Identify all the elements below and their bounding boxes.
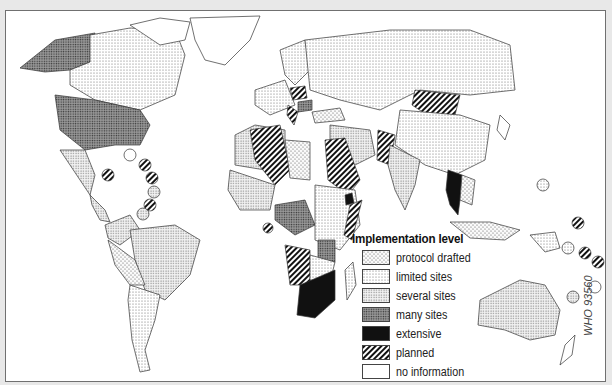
island-circle	[592, 256, 604, 268]
region-greenland	[190, 16, 260, 65]
legend-label: several sites	[396, 289, 456, 303]
region-hungary	[298, 100, 312, 112]
legend-label: extensive	[396, 327, 441, 341]
region-poland	[290, 86, 307, 100]
island-circle	[148, 186, 160, 198]
island-circle	[562, 242, 574, 254]
swatch-limited-sites-icon	[362, 269, 390, 284]
island-circle	[263, 223, 273, 233]
swatch-many-sites-icon	[362, 307, 390, 322]
region-indochina	[460, 175, 475, 205]
legend-label: protocol drafted	[396, 251, 471, 265]
region-thailand	[446, 170, 462, 215]
island-circle	[567, 291, 579, 303]
region-libya	[285, 140, 310, 180]
legend-label: limited sites	[396, 270, 452, 284]
island-circle	[124, 149, 136, 161]
region-russia	[305, 30, 515, 110]
legend-item-planned: planned	[362, 343, 502, 362]
legend-label: planned	[396, 346, 434, 360]
swatch-several-sites-icon	[362, 288, 390, 303]
legend-item-many-sites: many sites	[362, 305, 502, 324]
legend-item-limited-sites: limited sites	[362, 267, 502, 286]
region-argentina-chile	[128, 285, 160, 372]
region-new-zealand	[560, 335, 575, 365]
region-central-africa	[275, 200, 315, 235]
island-circle	[579, 247, 591, 259]
island-circle	[102, 169, 114, 181]
island-circle	[139, 159, 151, 171]
region-central-america	[90, 195, 110, 222]
swatch-planned-icon	[362, 345, 390, 360]
island-circle	[572, 217, 584, 229]
legend-item-extensive: extensive	[362, 324, 502, 343]
swatch-protocol-drafted-icon	[362, 250, 390, 265]
region-namibia-angola	[285, 245, 310, 285]
island-circle	[537, 179, 549, 191]
legend-item-several-sites: several sites	[362, 286, 502, 305]
region-png	[530, 232, 560, 252]
swatch-no-information-icon	[362, 364, 390, 379]
figure-code: WHO 93560	[582, 275, 594, 336]
island-circle	[137, 208, 149, 220]
legend-title: Implementation level	[352, 231, 481, 246]
region-italy	[287, 105, 298, 125]
legend-item-protocol-drafted: protocol drafted	[362, 248, 502, 267]
world-map	[0, 0, 612, 385]
region-ethiopia	[345, 193, 354, 205]
legend-label: many sites	[396, 308, 447, 322]
region-mexico	[60, 150, 95, 195]
legend-item-no-information: no information	[362, 362, 502, 381]
legend: Implementation level protocol drafted li…	[352, 231, 502, 381]
swatch-extensive-icon	[362, 326, 390, 341]
region-turkey	[312, 108, 345, 123]
legend-label: no information	[396, 365, 464, 379]
island-circle	[146, 172, 158, 184]
region-japan	[497, 115, 510, 140]
